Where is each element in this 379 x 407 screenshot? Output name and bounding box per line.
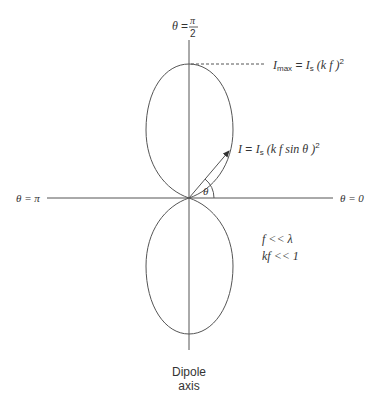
svg-text:=: = [181, 19, 188, 33]
svg-text:2: 2 [190, 28, 196, 39]
dipole-diagram: θ = π 2 θ = π θ = 0 θ Imax = Is (k f )2 … [0, 0, 379, 407]
svg-text:θ: θ [172, 19, 178, 33]
theta-zero-label: θ = 0 [340, 192, 364, 204]
theta-pi-label: θ = π [16, 192, 40, 204]
condition-f-lambda: f << λ [262, 232, 293, 246]
intensity-formula: I = Is (k f sin θ )2 [237, 141, 320, 157]
theta-pi-over-2-label: θ = π 2 [172, 15, 198, 39]
imax-formula: Imax = Is (k f )2 [272, 57, 344, 73]
svg-text:π: π [190, 15, 196, 26]
dipole-axis-label-line2: axis [178, 379, 199, 393]
theta-angle-label: θ [203, 185, 209, 197]
dipole-axis-label-line1: Dipole [172, 365, 206, 379]
intensity-arrow [189, 151, 229, 198]
condition-kf: kf << 1 [262, 249, 299, 263]
